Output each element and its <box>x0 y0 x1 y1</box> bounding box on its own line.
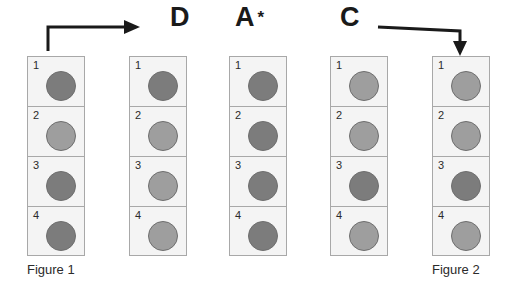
label-d: D <box>170 3 190 31</box>
label-a-star: A* <box>235 3 264 31</box>
cell-number: 3 <box>135 159 141 171</box>
column-figure-2: 1 2 3 4 <box>432 56 490 256</box>
caption-figure-2: Figure 2 <box>432 262 480 277</box>
disc <box>349 121 379 151</box>
cell-number: 1 <box>438 59 444 71</box>
cell-number: 2 <box>235 109 241 121</box>
label-c-text: C <box>340 2 360 32</box>
disc <box>248 221 278 251</box>
disc <box>46 121 76 151</box>
label-c: C <box>340 3 360 31</box>
cell: 1 <box>229 56 287 106</box>
disc <box>148 71 178 101</box>
cell: 2 <box>229 106 287 156</box>
disc <box>349 71 379 101</box>
label-d-text: D <box>170 2 190 32</box>
cell: 2 <box>129 106 187 156</box>
disc <box>248 121 278 151</box>
disc <box>148 221 178 251</box>
cell-number: 2 <box>135 109 141 121</box>
disc <box>46 71 76 101</box>
cell-number: 3 <box>336 159 342 171</box>
cell-number: 1 <box>235 59 241 71</box>
cell: 2 <box>27 106 85 156</box>
disc <box>46 221 76 251</box>
cell-number: 4 <box>235 209 241 221</box>
column-figure-1: 1 2 3 4 <box>27 56 85 256</box>
cell-number: 1 <box>336 59 342 71</box>
disc <box>46 171 76 201</box>
cell-number: 3 <box>33 159 39 171</box>
cell: 4 <box>27 206 85 256</box>
cell: 3 <box>330 156 388 206</box>
cell: 4 <box>129 206 187 256</box>
cell: 3 <box>229 156 287 206</box>
disc <box>451 121 481 151</box>
label-a-asterisk: * <box>258 8 265 27</box>
cell: 4 <box>432 206 490 256</box>
column-step-c: 1 2 3 4 <box>330 56 388 256</box>
cell-number: 2 <box>438 109 444 121</box>
cell-number: 4 <box>336 209 342 221</box>
cell: 3 <box>27 156 85 206</box>
cell: 1 <box>330 56 388 106</box>
column-step-a-star: 1 2 3 4 <box>229 56 287 256</box>
cell-number: 4 <box>135 209 141 221</box>
cell: 4 <box>229 206 287 256</box>
cell-number: 4 <box>33 209 39 221</box>
disc <box>148 171 178 201</box>
cell: 3 <box>129 156 187 206</box>
cell: 2 <box>330 106 388 156</box>
cell-number: 4 <box>438 209 444 221</box>
cell: 1 <box>432 56 490 106</box>
disc <box>451 221 481 251</box>
cell-number: 3 <box>438 159 444 171</box>
disc <box>248 171 278 201</box>
cell: 1 <box>129 56 187 106</box>
disc <box>451 171 481 201</box>
cell-number: 1 <box>135 59 141 71</box>
column-step-d: 1 2 3 4 <box>129 56 187 256</box>
caption-figure-1: Figure 1 <box>27 262 75 277</box>
disc <box>349 171 379 201</box>
disc <box>451 71 481 101</box>
cell: 1 <box>27 56 85 106</box>
disc <box>148 121 178 151</box>
cell-number: 2 <box>336 109 342 121</box>
cell-number: 2 <box>33 109 39 121</box>
disc <box>349 221 379 251</box>
cell-number: 1 <box>33 59 39 71</box>
figure-canvas: D A* C 1 2 3 4 1 2 <box>0 0 511 293</box>
cell: 4 <box>330 206 388 256</box>
cell-number: 3 <box>235 159 241 171</box>
disc <box>248 71 278 101</box>
cell: 2 <box>432 106 490 156</box>
label-a-text: A <box>235 2 255 32</box>
cell: 3 <box>432 156 490 206</box>
